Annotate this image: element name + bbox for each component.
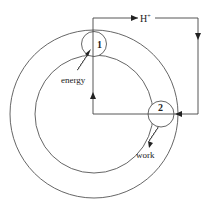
proton-label: H+ <box>140 13 151 24</box>
work-wavy-arrow-icon <box>148 127 158 148</box>
site-1-label: 1 <box>97 39 102 50</box>
energy-label: energy <box>61 75 86 85</box>
arrow-left-icon <box>175 111 182 117</box>
arrow-up-icon <box>90 92 96 99</box>
arrow-right-icon <box>131 15 138 21</box>
site-2-label: 2 <box>158 102 163 113</box>
diagram-canvas: 1 2 H+ energy work <box>0 0 220 203</box>
proton-circuit-path <box>93 18 198 114</box>
arrow-down-icon <box>195 33 201 40</box>
site-1-circle <box>82 32 107 57</box>
work-label: work <box>136 150 155 160</box>
